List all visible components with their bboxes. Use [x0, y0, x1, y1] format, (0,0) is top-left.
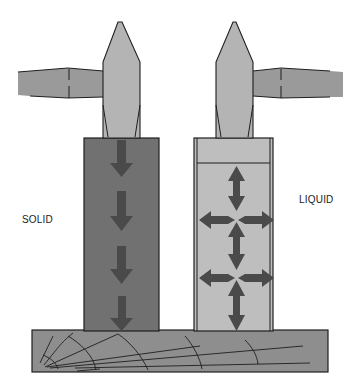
- pressure-diagram: [0, 0, 354, 385]
- left-hammer-icon: [18, 22, 140, 138]
- hammer-handle: [253, 68, 343, 98]
- hammer-head: [216, 22, 253, 138]
- solid-label: SOLID: [22, 214, 53, 225]
- solid-column: [84, 138, 159, 331]
- liquid-label: LIQUID: [299, 194, 334, 205]
- base-surface: [32, 330, 328, 372]
- hammer-handle: [18, 68, 103, 98]
- hammer-head: [103, 22, 140, 138]
- liquid-column: [194, 138, 274, 331]
- right-hammer-icon: [216, 22, 343, 138]
